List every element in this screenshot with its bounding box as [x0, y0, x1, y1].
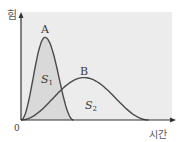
- x-axis-label: 시간: [149, 129, 167, 140]
- peak-label-b: B: [80, 65, 88, 78]
- area-label-s2-subscript: 2: [93, 105, 97, 113]
- y-axis-label: 힘: [7, 9, 17, 22]
- peak-label-a: A: [40, 23, 50, 36]
- force-time-diagram: 힘 시간 0 A B S1 S2: [0, 0, 182, 142]
- origin-label: 0: [14, 123, 20, 133]
- x-axis-arrow-icon: [170, 118, 176, 123]
- area-label-s1-subscript: 1: [49, 79, 53, 87]
